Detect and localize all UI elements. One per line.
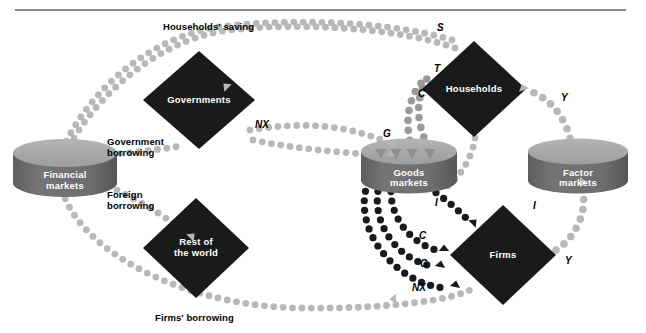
flow-label-households-saving: Households' saving — [163, 22, 254, 33]
flow-label-government-borrowing: Government borrowing — [107, 137, 164, 158]
flow-label-sym-Y-top: Y — [561, 92, 568, 103]
node-label-factor-markets: Factor markets — [528, 168, 628, 190]
node-label-goods-markets: Goods markets — [361, 168, 457, 190]
arrowhead — [468, 216, 480, 228]
flow-path-NX-to-firms — [361, 178, 446, 291]
flow-label-sym-NX-bottom: NX — [412, 282, 426, 293]
node-label-households: Households — [422, 84, 526, 95]
flow-path-Y-firms — [552, 186, 587, 254]
diagram-canvas — [0, 0, 646, 333]
flow-label-sym-C-bottom: C — [419, 230, 426, 241]
flow-label-sym-G-bottom: G — [420, 258, 428, 269]
circular-flow-diagram: Households' savingGovernment borrowingFo… — [0, 0, 646, 333]
arrowhead — [435, 260, 446, 268]
flow-label-sym-Y-bottom: Y — [565, 255, 572, 266]
flow-label-sym-T: T — [434, 63, 440, 74]
node-label-financial-markets: Financial markets — [13, 170, 117, 192]
flow-label-sym-S: S — [437, 22, 444, 33]
node-label-firms: Firms — [450, 250, 556, 261]
arrowhead — [439, 245, 449, 252]
flow-label-sym-NX-top: NX — [255, 119, 269, 130]
flow-label-sym-I-right: I — [533, 200, 536, 211]
flow-path-households-saving — [66, 23, 459, 152]
flow-label-sym-G-left: G — [383, 128, 391, 139]
arrowhead — [390, 294, 397, 304]
flow-label-firms-borrowing: Firms' borrowing — [155, 313, 234, 324]
arrowhead — [450, 280, 461, 288]
flow-label-sym-I-left: I — [435, 197, 438, 208]
node-label-governments: Governments — [143, 95, 255, 106]
flow-label-foreign-borrowing: Foreign borrowing — [107, 190, 154, 211]
node-label-rest-of-the-world: Rest of the world — [143, 237, 249, 259]
